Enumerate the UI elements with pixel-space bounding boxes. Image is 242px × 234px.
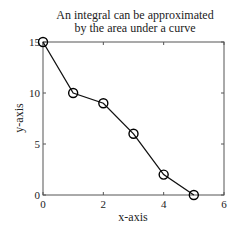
y-tick-label: 0: [35, 189, 41, 201]
x-tick-label: 0: [40, 198, 46, 210]
x-axis-label: x-axis: [118, 210, 148, 224]
y-tick-label: 5: [35, 138, 41, 150]
x-tick-label: 6: [221, 198, 227, 210]
plot-area: 0246051015 x-axis y-axis: [0, 0, 242, 234]
data-line: [43, 42, 194, 195]
axis-ticks: [43, 42, 224, 195]
axes-frame: [43, 42, 224, 195]
tick-labels: 0246051015: [29, 36, 227, 210]
x-tick-label: 2: [101, 198, 107, 210]
x-tick-label: 4: [161, 198, 167, 210]
y-axis-label: y-axis: [12, 103, 26, 133]
y-tick-label: 10: [29, 87, 41, 99]
